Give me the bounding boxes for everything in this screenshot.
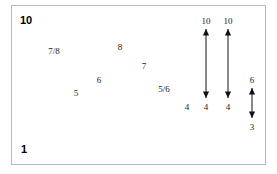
range-arrow-1-bottom-label: 4: [204, 102, 209, 112]
figure-frame: [11, 5, 266, 165]
point-label-7-8: 7/8: [48, 46, 60, 56]
bottom-left-scale-label: 1: [21, 143, 27, 155]
point-label-7: 7: [142, 61, 147, 71]
point-label-5: 5: [74, 88, 79, 98]
point-label-8: 8: [118, 42, 123, 52]
range-arrow-1-top-label: 10: [202, 16, 211, 26]
point-label-6: 6: [97, 75, 102, 85]
point-label-5-6: 5/6: [158, 84, 170, 94]
range-arrow-3-bottom-label: 3: [250, 122, 255, 132]
range-arrow-2-bottom-label: 4: [226, 102, 231, 112]
range-arrow-3-top-label: 6: [250, 75, 255, 85]
range-arrow-2-top-label: 10: [224, 16, 233, 26]
point-label-4: 4: [185, 102, 190, 112]
top-left-scale-label: 10: [20, 14, 32, 26]
figure-canvas: 1017/856875/6410410463: [0, 0, 277, 174]
